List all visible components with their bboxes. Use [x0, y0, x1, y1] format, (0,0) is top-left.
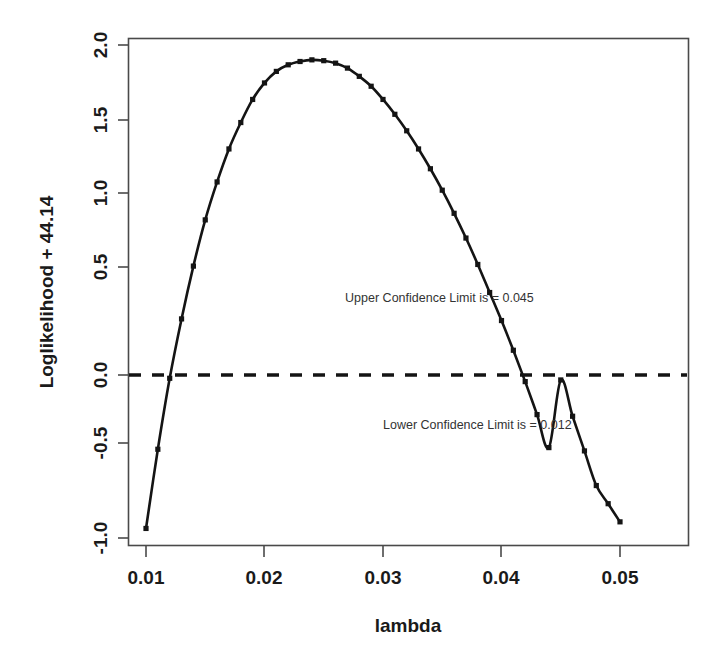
- data-point: [523, 379, 528, 384]
- data-point: [392, 112, 397, 117]
- x-tick-label-0.03: 0.03: [365, 567, 402, 588]
- data-point: [309, 57, 314, 62]
- y-tick-label-0.5: 0.5: [90, 253, 111, 280]
- data-point: [380, 97, 385, 102]
- data-point: [250, 97, 255, 102]
- data-point: [416, 146, 421, 151]
- y-tick-label-2.0: 2.0: [90, 32, 111, 58]
- data-point: [297, 59, 302, 64]
- data-point: [558, 377, 563, 382]
- chart-background: [0, 0, 728, 662]
- data-point: [274, 69, 279, 74]
- upper-confidence-limit-annotation: Upper Confidence Limit is = 0.045: [345, 291, 534, 305]
- y-tick-label--1.0: -1.0: [90, 522, 111, 555]
- data-point: [617, 519, 622, 524]
- x-axis-title: lambda: [375, 615, 442, 636]
- x-tick-label-0.05: 0.05: [602, 567, 639, 588]
- y-tick-label-0.0: 0.0: [90, 362, 111, 388]
- data-point: [369, 84, 374, 89]
- data-point: [534, 412, 539, 417]
- lower-confidence-limit-annotation: Lower Confidence Limit is = 0.012: [383, 418, 572, 432]
- y-tick-label-1.0: 1.0: [90, 180, 111, 206]
- data-point: [428, 166, 433, 171]
- data-point: [167, 376, 172, 381]
- data-point: [546, 445, 551, 450]
- chart-figure: 2.0 1.5 1.0 0.5 0.0 -0.5 -1.0 Loglikelih…: [0, 0, 728, 662]
- x-tick-label-0.02: 0.02: [246, 567, 283, 588]
- data-point: [155, 447, 160, 452]
- data-point: [143, 526, 148, 531]
- data-point: [321, 58, 326, 63]
- data-point: [440, 188, 445, 193]
- y-tick-label-1.5: 1.5: [90, 106, 111, 133]
- data-point: [333, 61, 338, 66]
- data-point: [594, 483, 599, 488]
- data-point: [226, 146, 231, 151]
- data-point: [191, 264, 196, 269]
- y-axis-title: Loglikelihood + 44.14: [36, 195, 57, 388]
- data-point: [452, 211, 457, 216]
- data-point: [511, 348, 516, 353]
- x-tick-label-0.01: 0.01: [128, 567, 165, 588]
- data-point: [404, 128, 409, 133]
- data-point: [215, 179, 220, 184]
- data-point: [606, 501, 611, 506]
- data-point: [499, 318, 504, 323]
- data-point: [203, 217, 208, 222]
- data-point: [262, 80, 267, 85]
- loglikelihood-profile-chart: 2.0 1.5 1.0 0.5 0.0 -0.5 -1.0 Loglikelih…: [0, 0, 728, 662]
- y-tick-label--0.5: -0.5: [90, 426, 111, 459]
- data-point: [238, 120, 243, 125]
- data-point: [179, 316, 184, 321]
- data-point: [286, 62, 291, 67]
- data-point: [345, 66, 350, 71]
- data-point: [357, 74, 362, 79]
- data-point: [475, 262, 480, 267]
- x-tick-label-0.04: 0.04: [483, 567, 520, 588]
- data-point: [463, 235, 468, 240]
- data-point: [582, 448, 587, 453]
